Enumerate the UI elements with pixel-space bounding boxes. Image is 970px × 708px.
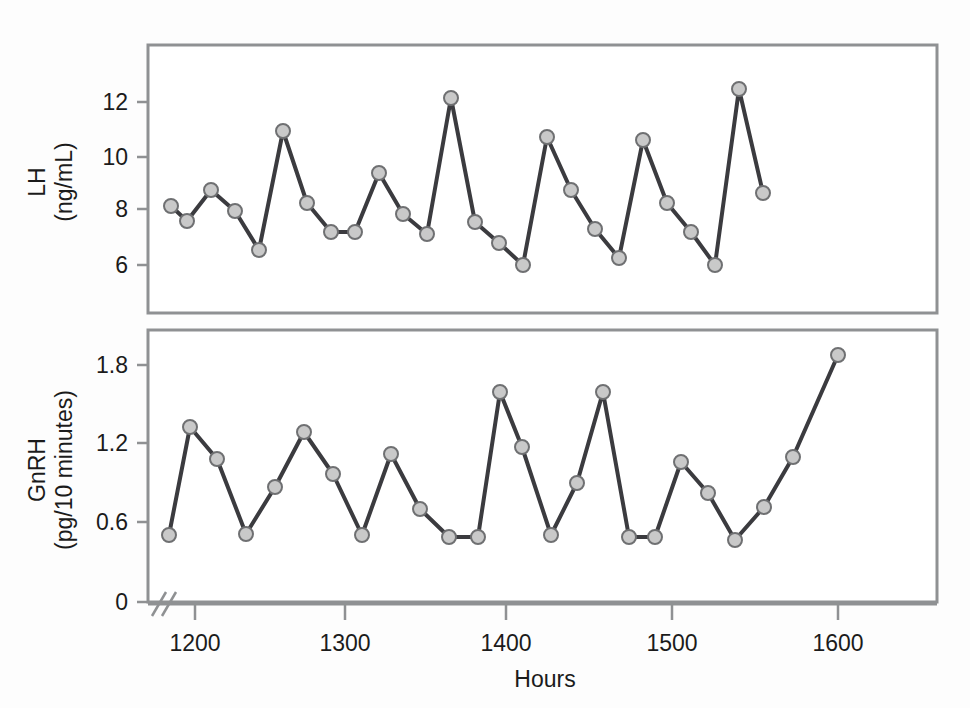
gnrh-ytick-label-0-6: 0.6 xyxy=(96,509,128,535)
dual-panel-line-chart: 12 10 8 6 LH (ng/mL) xyxy=(0,0,970,708)
gnrh-ytick-label-0: 0 xyxy=(115,589,128,615)
x-ticks xyxy=(195,604,838,620)
shared-x-axis: 1200 1300 1400 1500 1600 Hours xyxy=(148,604,937,692)
lh-ytick-label-6: 6 xyxy=(115,252,128,278)
lh-ytick-label-12: 12 xyxy=(102,89,128,115)
xtick-label-1600: 1600 xyxy=(812,630,863,656)
gnrh-ytick-label-1-8: 1.8 xyxy=(96,352,128,378)
lh-plot-frame xyxy=(148,45,937,313)
gnrh-axis-title: GnRH (pg/10 minutes) xyxy=(24,390,77,550)
xtick-label-1500: 1500 xyxy=(646,630,697,656)
figure-container: 12 10 8 6 LH (ng/mL) xyxy=(0,0,970,708)
lh-axis-title-line2: (ng/mL) xyxy=(51,142,77,221)
gnrh-plot-frame xyxy=(148,330,937,602)
lh-ytick-label-8: 8 xyxy=(115,196,128,222)
lh-ytick-label-10: 10 xyxy=(102,144,128,170)
panel-gnrh: 1.8 1.2 0.6 0 GnRH (pg/10 minutes) xyxy=(24,330,937,616)
x-axis-title: Hours xyxy=(514,666,575,692)
gnrh-axis-title-line1: GnRH xyxy=(24,438,50,502)
xtick-label-1400: 1400 xyxy=(480,630,531,656)
gnrh-ytick-label-1-2: 1.2 xyxy=(96,430,128,456)
lh-axis-title-line1: LH xyxy=(24,167,50,196)
lh-axis-title: LH (ng/mL) xyxy=(24,142,77,221)
xtick-label-1200: 1200 xyxy=(169,630,220,656)
xtick-label-1300: 1300 xyxy=(319,630,370,656)
panel-lh: 12 10 8 6 LH (ng/mL) xyxy=(24,45,937,313)
gnrh-axis-title-line2: (pg/10 minutes) xyxy=(51,390,77,550)
